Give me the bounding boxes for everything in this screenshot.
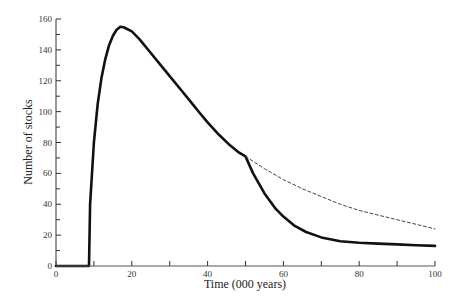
line-chart: 020406080100120140160 020406080100 Time … — [0, 0, 462, 307]
x-tick-label: 100 — [428, 269, 442, 279]
y-tick-label: 80 — [43, 138, 53, 148]
x-tick-label: 80 — [355, 269, 365, 279]
x-tick-label: 20 — [127, 269, 137, 279]
y-tick-label: 40 — [43, 199, 53, 209]
plot-lines — [56, 27, 435, 266]
y-axis-title: Number of stocks — [21, 99, 35, 185]
y-tick-label: 100 — [39, 107, 53, 117]
y-axis: 020406080100120140160 — [39, 14, 62, 271]
y-tick-label: 140 — [39, 45, 53, 55]
y-tick-label: 60 — [43, 168, 53, 178]
solid-series-line — [56, 27, 435, 266]
y-tick-label: 160 — [39, 14, 53, 24]
y-tick-label: 120 — [39, 76, 53, 86]
y-tick-label: 0 — [48, 261, 53, 271]
y-tick-label: 20 — [43, 230, 53, 240]
x-axis-title: Time (000 years) — [204, 277, 286, 291]
dashed-series-line — [246, 156, 436, 229]
x-tick-label: 0 — [54, 269, 59, 279]
